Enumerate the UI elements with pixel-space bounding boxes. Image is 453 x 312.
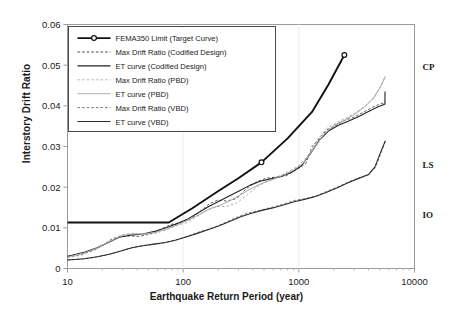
y-tick-label: 0 bbox=[55, 263, 60, 274]
y-tick-label: 0.03 bbox=[42, 141, 61, 152]
legend-label: ET curve (VBD) bbox=[116, 118, 169, 127]
legend-label: Max Drift Ratio (PBD) bbox=[116, 76, 189, 85]
legend-label: Max Drift Ratio (VBD) bbox=[116, 104, 189, 113]
y-tick-label: 0.06 bbox=[42, 19, 61, 30]
x-tick-label: 100 bbox=[175, 276, 191, 287]
y-tick-label: 0.02 bbox=[42, 182, 61, 193]
legend-label: Max Drift Ratio (Codified Design) bbox=[116, 48, 227, 57]
series-marker bbox=[342, 53, 347, 58]
performance-level-label: CP bbox=[423, 62, 435, 72]
performance-level-label: IO bbox=[423, 210, 434, 220]
y-tick-label: 0.04 bbox=[42, 100, 61, 111]
series-line bbox=[68, 141, 386, 260]
y-tick-label: 0.01 bbox=[42, 222, 61, 233]
y-tick-label: 0.05 bbox=[42, 60, 61, 71]
chart-figure: Interstory Drift Ratio Earthquake Return… bbox=[0, 0, 453, 312]
chart-plot-area: 00.010.020.030.040.050.0610100100010000C… bbox=[0, 0, 453, 312]
legend-label: FEMA350 Limit (Target Curve) bbox=[116, 34, 219, 43]
legend-swatch-marker bbox=[92, 36, 97, 41]
series-line bbox=[68, 141, 386, 260]
legend-label: ET curve (Codified Design) bbox=[116, 62, 207, 71]
series-marker bbox=[259, 160, 264, 165]
legend-label: ET curve (PBD) bbox=[116, 90, 169, 99]
x-tick-label: 10000 bbox=[401, 276, 427, 287]
x-tick-label: 10 bbox=[62, 276, 73, 287]
performance-level-label: LS bbox=[423, 160, 434, 170]
x-tick-label: 1000 bbox=[288, 276, 309, 287]
